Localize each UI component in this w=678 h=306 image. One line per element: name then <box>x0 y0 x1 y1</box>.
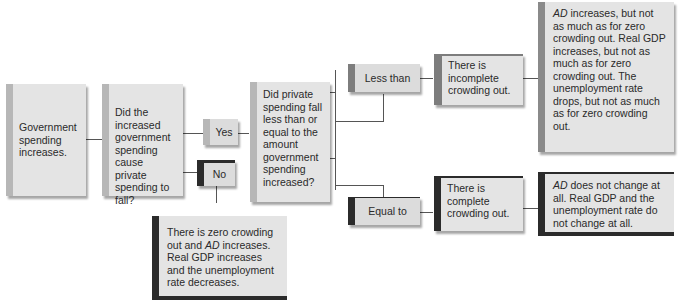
connector-q2-to-equal <box>335 185 384 186</box>
incomplete-crowding-box: There is incomplete crowding out. <box>434 54 523 105</box>
zero-crowding-box: There is zero crowding out and AD increa… <box>152 216 287 300</box>
connector-complete-result <box>522 208 539 209</box>
no-label: No <box>213 168 226 181</box>
complete-crowding-text: There is complete crowding out. <box>441 178 523 224</box>
complete-crowding-box: There is complete crowding out. <box>434 176 523 231</box>
start-box: Government spending increases. <box>6 84 86 196</box>
incomplete-crowding-text: There is incomplete crowding out. <box>442 56 523 100</box>
connector-q1-yes <box>182 133 204 134</box>
connector-q2-branch <box>335 70 336 190</box>
question2-text: Did private spending fall less than or e… <box>257 82 330 194</box>
connector-less-incomplete <box>418 78 433 79</box>
complete-result-box: AD does not change at all. Real GDP and … <box>538 172 674 236</box>
connector-equal-complete <box>418 212 433 213</box>
equal-to-label-box: Equal to <box>348 197 420 225</box>
start-text: Government spending increases. <box>13 115 86 165</box>
zero-crowding-text: There is zero crowding out and AD increa… <box>159 216 287 299</box>
yes-label-box: Yes <box>203 119 238 145</box>
connector-q1-no <box>182 172 198 173</box>
yes-label: Yes <box>215 126 232 139</box>
complete-result-text: AD does not change at all. Real GDP and … <box>545 174 674 234</box>
incomplete-result-box: AD increases, but not as much as for zer… <box>538 2 674 152</box>
question1-box: Did the increased government spending ca… <box>102 84 183 196</box>
connector-equal-up <box>383 185 384 197</box>
incomplete-result-text: AD increases, but not as much as for zer… <box>545 2 674 137</box>
less-than-label: Less than <box>365 72 411 85</box>
connector-no-zero <box>216 185 217 203</box>
connector-start-q1 <box>85 139 103 140</box>
connector-to-less <box>335 121 384 122</box>
no-label-box: No <box>197 160 235 186</box>
connector-yes-q2 <box>237 133 249 134</box>
question1-text: Did the increased government spending ca… <box>109 84 183 212</box>
less-than-label-box: Less than <box>348 64 420 92</box>
connector-less-up <box>383 94 384 122</box>
connector-incomplete-result <box>522 78 539 79</box>
question2-box: Did private spending fall less than or e… <box>250 82 330 202</box>
equal-to-label: Equal to <box>368 205 407 218</box>
